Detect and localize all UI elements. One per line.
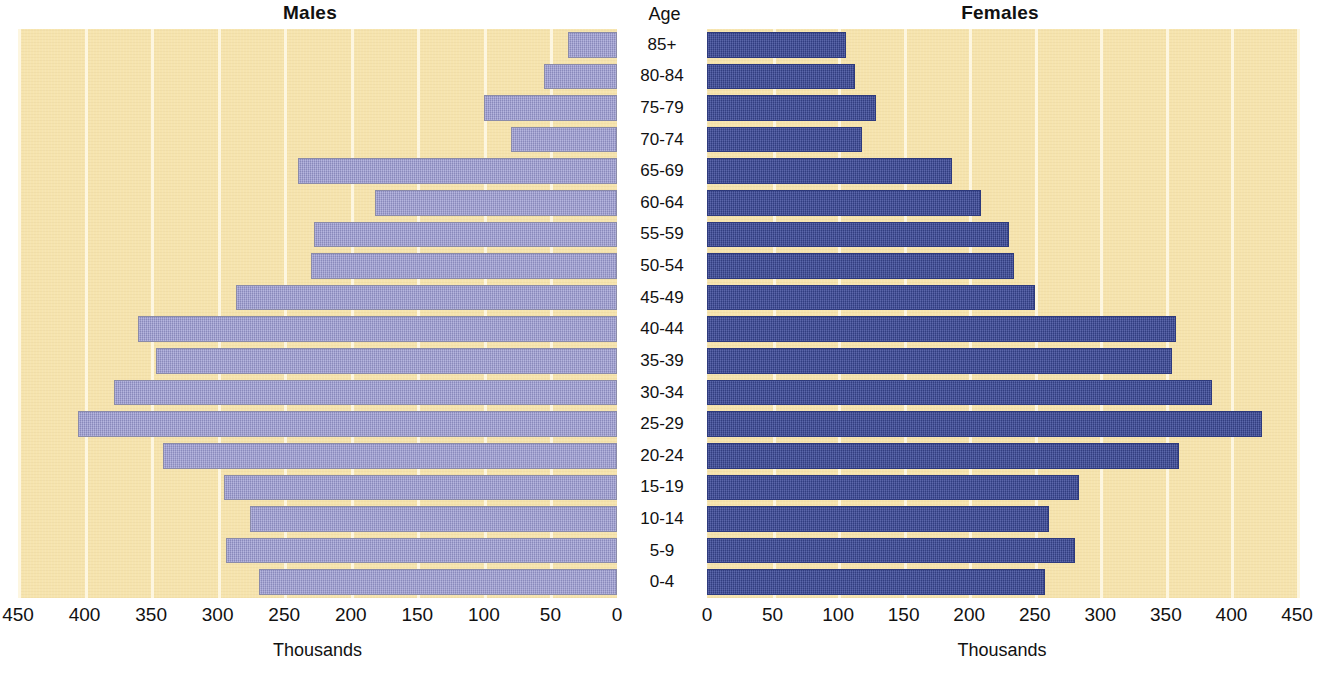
females-x-axis: 050100150200250300350400450 [707, 598, 1297, 628]
bar-females-80-84 [707, 64, 855, 90]
bar-males-0-4 [259, 569, 617, 595]
x-tick-label: 350 [1150, 604, 1182, 626]
bar-row [18, 313, 617, 345]
bar-males-85+ [568, 32, 617, 58]
x-tick-label: 0 [702, 604, 713, 626]
age-group-label: 30-34 [617, 377, 707, 409]
males-axis-caption: Thousands [18, 640, 617, 661]
x-tick-label: 450 [2, 604, 34, 626]
bar-males-20-24 [163, 443, 617, 469]
bar-row [18, 503, 617, 535]
bar-row [707, 124, 1297, 156]
bar-males-30-34 [114, 380, 617, 406]
bar-males-60-64 [375, 190, 617, 216]
age-group-label: 40-44 [617, 313, 707, 345]
age-group-label: 45-49 [617, 282, 707, 314]
bar-males-80-84 [544, 64, 617, 90]
bar-males-5-9 [226, 538, 617, 564]
x-tick-label: 450 [1281, 604, 1313, 626]
bar-row [18, 345, 617, 377]
bar-row [18, 155, 617, 187]
x-tick-label: 300 [1084, 604, 1116, 626]
bar-row [707, 155, 1297, 187]
females-axis-caption: Thousands [707, 640, 1297, 661]
bar-row [707, 345, 1297, 377]
x-tick-label: 350 [135, 604, 167, 626]
bar-row [707, 250, 1297, 282]
bar-females-75-79 [707, 95, 876, 121]
bar-row [18, 219, 617, 251]
bar-row [18, 440, 617, 472]
bar-females-85+ [707, 32, 846, 58]
bar-row [707, 187, 1297, 219]
females-plot-area [707, 29, 1297, 598]
age-group-label: 0-4 [617, 566, 707, 598]
age-group-label: 35-39 [617, 345, 707, 377]
bar-row [707, 29, 1297, 61]
bar-row [18, 61, 617, 93]
bar-males-70-74 [511, 127, 617, 153]
males-bar-rows [18, 29, 617, 598]
bar-row [18, 472, 617, 504]
x-tick-label: 200 [335, 604, 367, 626]
age-group-label: 55-59 [617, 219, 707, 251]
bar-row [707, 282, 1297, 314]
age-group-label: 15-19 [617, 472, 707, 504]
population-pyramid-chart: Males Age Females 85+80-8475-7970-7465-6… [0, 0, 1330, 677]
x-tick-label: 200 [953, 604, 985, 626]
bar-females-50-54 [707, 253, 1014, 279]
bar-row [707, 566, 1297, 598]
x-tick-label: 0 [612, 604, 623, 626]
bar-females-60-64 [707, 190, 981, 216]
bar-row [18, 29, 617, 61]
bar-row [707, 408, 1297, 440]
age-group-label: 10-14 [617, 503, 707, 535]
bar-row [707, 92, 1297, 124]
x-tick-label: 250 [1019, 604, 1051, 626]
females-bar-rows [707, 29, 1297, 598]
x-tick-label: 250 [268, 604, 300, 626]
age-group-label: 80-84 [617, 61, 707, 93]
bar-males-25-29 [78, 411, 617, 437]
bar-females-20-24 [707, 443, 1179, 469]
age-group-label: 85+ [617, 29, 707, 61]
bar-row [707, 313, 1297, 345]
bar-males-15-19 [224, 475, 617, 501]
bar-row [18, 408, 617, 440]
bar-row [18, 124, 617, 156]
males-plot-area [18, 29, 617, 598]
x-tick-label: 150 [888, 604, 920, 626]
bar-females-10-14 [707, 506, 1049, 532]
males-panel-title: Males [0, 2, 620, 24]
bar-females-45-49 [707, 285, 1035, 311]
x-tick-label: 50 [762, 604, 783, 626]
bar-females-25-29 [707, 411, 1262, 437]
males-x-axis: 450400350300250200150100500 [18, 598, 617, 628]
bar-row [707, 61, 1297, 93]
x-tick-label: 300 [202, 604, 234, 626]
bar-females-15-19 [707, 475, 1079, 501]
age-group-label: 25-29 [617, 408, 707, 440]
bar-row [18, 535, 617, 567]
bar-row [18, 92, 617, 124]
x-tick-label: 150 [401, 604, 433, 626]
bar-row [707, 472, 1297, 504]
bar-males-10-14 [250, 506, 617, 532]
age-label-column: 85+80-8475-7970-7465-6960-6455-5950-5445… [617, 29, 707, 598]
bar-row [18, 282, 617, 314]
bar-males-65-69 [298, 158, 617, 184]
bar-row [707, 440, 1297, 472]
x-tick-label: 50 [540, 604, 561, 626]
bar-row [707, 503, 1297, 535]
gridline-450 [1297, 29, 1300, 598]
age-group-label: 60-64 [617, 187, 707, 219]
x-tick-label: 400 [1216, 604, 1248, 626]
age-column-header: Age [617, 4, 712, 25]
bar-males-45-49 [236, 285, 617, 311]
bar-row [707, 219, 1297, 251]
bar-row [18, 250, 617, 282]
bar-row [707, 535, 1297, 567]
bar-males-50-54 [311, 253, 617, 279]
x-tick-label: 100 [822, 604, 854, 626]
bar-females-70-74 [707, 127, 862, 153]
